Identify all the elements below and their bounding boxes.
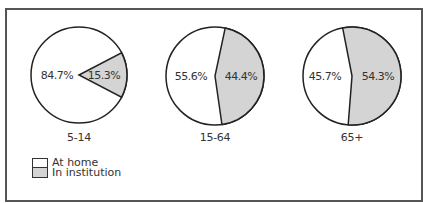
legend-item-in-institution: In institution — [32, 168, 121, 178]
legend-label: In institution — [52, 168, 121, 178]
pct-label-in-institution: 54.3% — [362, 70, 394, 83]
pct-label-in-institution: 44.4% — [225, 70, 257, 83]
legend-swatch-at-home — [32, 158, 48, 168]
legend-swatch-in-institution — [32, 168, 48, 179]
pie-15-64: 55.6% 44.4% 15-64 — [166, 27, 264, 144]
pct-label-at-home: 84.7% — [41, 69, 73, 82]
pct-label-in-institution: 15.3% — [88, 69, 120, 82]
pie-65-plus: 45.7% 54.3% 65+ — [303, 27, 401, 144]
category-label: 15-64 — [200, 131, 231, 144]
pct-label-at-home: 45.7% — [309, 70, 341, 83]
category-label: 5-14 — [67, 131, 91, 144]
pct-label-at-home: 55.6% — [175, 70, 207, 83]
legend: At home In institution — [32, 158, 121, 178]
pie-5-14: 84.7% 15.3% 5-14 — [31, 27, 127, 144]
category-label: 65+ — [341, 131, 363, 144]
